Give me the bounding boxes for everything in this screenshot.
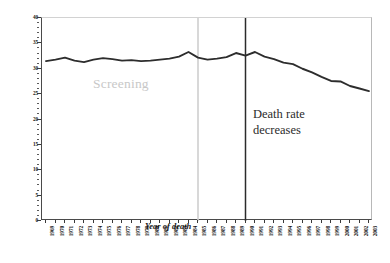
y-axis-tick-label: 40 [18, 14, 38, 20]
x-axis-tick-label: 1995 [295, 226, 303, 256]
y-axis-tick-label: 5 [18, 192, 38, 198]
x-axis-tick-mark [340, 220, 341, 223]
x-axis-tick-mark [292, 220, 293, 223]
x-axis-tick-label: 1983 [181, 226, 189, 256]
x-axis-tick-label: 1969 [48, 226, 56, 256]
x-axis-tick-label: 1989 [238, 226, 246, 256]
x-axis-tick-mark [283, 220, 284, 223]
x-axis-tick-labels: 1969197019711972197319741975197619771978… [41, 224, 372, 263]
x-axis-tick-label: 1981 [162, 226, 170, 256]
x-axis-tick-label: 1977 [124, 226, 132, 256]
x-axis-tick-mark [45, 220, 46, 223]
y-axis-minor-tick-mark [37, 108, 39, 109]
x-axis-tick-mark [311, 220, 312, 223]
y-axis-minor-tick-mark [37, 113, 39, 114]
x-axis-tick-mark [349, 220, 350, 223]
x-axis-tick-mark [121, 220, 122, 223]
y-axis-minor-tick-mark [37, 22, 39, 23]
y-axis-minor-tick-mark [37, 159, 39, 160]
x-axis-tick-mark [235, 220, 236, 223]
y-axis-minor-tick-mark [37, 200, 39, 201]
x-axis-tick-label: 1980 [153, 226, 161, 256]
y-axis-minor-tick-mark [37, 32, 39, 33]
y-axis-minor-tick-mark [37, 53, 39, 54]
y-axis-minor-tick-mark [37, 179, 39, 180]
x-axis-tick-mark [131, 220, 132, 223]
death-rate-annotation: Death rate decreases [253, 106, 305, 138]
x-axis-tick-label: 1996 [305, 226, 313, 256]
death-rate-annotation-line2: decreases [253, 122, 305, 138]
screening-annotation: Screening [93, 76, 149, 92]
x-axis-tick-label: 2002 [362, 226, 370, 256]
x-axis-tick-label: 1997 [314, 226, 322, 256]
x-axis-tick-label: 2001 [352, 226, 360, 256]
x-axis-tick-mark [359, 220, 360, 223]
x-axis-tick-mark [245, 220, 246, 223]
x-axis-tick-mark [368, 220, 369, 223]
y-axis-minor-tick-mark [37, 129, 39, 130]
x-axis-tick-label: 1976 [115, 226, 123, 256]
x-axis-tick-label: 1978 [134, 226, 142, 256]
x-axis-tick-mark [140, 220, 141, 223]
x-axis-tick-label: 1994 [286, 226, 294, 256]
x-axis-tick-mark [254, 220, 255, 223]
x-axis-tick-mark [264, 220, 265, 223]
y-axis-minor-tick-mark [37, 149, 39, 150]
y-axis-minor-tick-mark [37, 134, 39, 135]
x-axis-tick-label: 1970 [58, 226, 66, 256]
x-axis-tick-mark [321, 220, 322, 223]
y-axis-minor-tick-mark [37, 58, 39, 59]
y-axis-minor-tick-mark [37, 73, 39, 74]
x-axis-tick-label: 2003 [371, 226, 379, 256]
x-axis-tick-label: 1975 [105, 226, 113, 256]
x-axis-tick-label: 1972 [77, 226, 85, 256]
x-axis-tick-label: 1999 [333, 226, 341, 256]
x-axis-tick-label: 1993 [276, 226, 284, 256]
y-axis-minor-tick-mark [37, 215, 39, 216]
y-axis-minor-tick-mark [37, 63, 39, 64]
y-axis-tick-labels: 0510152025303540 [14, 0, 38, 263]
x-axis-tick-mark [112, 220, 113, 223]
x-axis-tick-label: 1974 [96, 226, 104, 256]
x-axis-tick-label: 2000 [343, 226, 351, 256]
x-axis-tick-label: 1987 [219, 226, 227, 256]
y-axis-tick-label: 35 [18, 39, 38, 45]
x-axis-tick-mark [197, 220, 198, 223]
y-axis-minor-tick-mark [37, 83, 39, 84]
y-axis-minor-tick-mark [37, 103, 39, 104]
x-axis-tick-mark [93, 220, 94, 223]
y-axis-tick-label: 20 [18, 116, 38, 122]
y-axis-minor-tick-mark [37, 190, 39, 191]
y-axis-tick-label: 10 [18, 166, 38, 172]
x-axis-tick-mark [216, 220, 217, 223]
y-axis-minor-tick-mark [37, 27, 39, 28]
y-axis-minor-tick-mark [37, 210, 39, 211]
x-axis-tick-mark [207, 220, 208, 223]
x-axis-tick-label: 1973 [86, 226, 94, 256]
y-axis-minor-tick-mark [37, 205, 39, 206]
x-axis-tick-label: 1998 [324, 226, 332, 256]
x-axis-tick-mark [302, 220, 303, 223]
chart-screenshot: Rate per 100,000 0510152025303540 Year o… [0, 0, 390, 263]
y-axis-tick-label: 0 [18, 217, 38, 223]
y-axis-minor-tick-mark [37, 124, 39, 125]
y-axis-minor-tick-mark [37, 174, 39, 175]
y-axis-minor-tick-mark [37, 98, 39, 99]
x-axis-tick-mark [226, 220, 227, 223]
x-axis-tick-label: 1986 [210, 226, 218, 256]
y-axis-minor-tick-mark [37, 78, 39, 79]
x-axis-tick-mark [102, 220, 103, 223]
x-axis-tick-label: 1988 [229, 226, 237, 256]
x-axis-tick-label: 1991 [257, 226, 265, 256]
x-axis-tick-mark [83, 220, 84, 223]
y-axis-minor-tick-mark [37, 47, 39, 48]
y-axis-minor-tick-mark [37, 37, 39, 38]
x-axis-tick-label: 1979 [143, 226, 151, 256]
y-axis-minor-tick-mark [37, 88, 39, 89]
x-axis-tick-label: 1992 [267, 226, 275, 256]
x-axis-tick-mark [64, 220, 65, 223]
y-axis-tick-label: 30 [18, 65, 38, 71]
x-axis-tick-mark [74, 220, 75, 223]
data-line-svg [42, 18, 373, 221]
plot-area [41, 17, 372, 220]
